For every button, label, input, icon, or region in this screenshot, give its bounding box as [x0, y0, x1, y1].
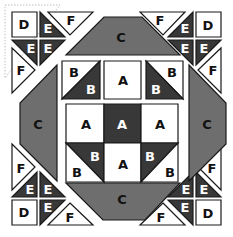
- piece-label: F: [209, 63, 218, 78]
- piece-label: B: [145, 149, 155, 164]
- piece-label: E: [44, 200, 53, 215]
- piece-label: B: [86, 82, 96, 97]
- piece-label: C: [117, 192, 127, 207]
- piece-label: F: [17, 63, 26, 78]
- piece-label: E: [27, 41, 36, 56]
- piece-label: B: [90, 149, 100, 164]
- piece-label: E: [181, 21, 190, 36]
- quilt-block-diagram: DEFEEFDEFEEFDEEEFFDEEEFFCCCCBBABBAAABBAB…: [0, 0, 233, 237]
- piece-label: F: [67, 13, 76, 28]
- piece-label: D: [19, 17, 30, 32]
- piece-label: D: [203, 18, 214, 33]
- piece-label: B: [167, 65, 177, 80]
- piece-label: A: [81, 117, 91, 132]
- piece-label: A: [117, 117, 127, 132]
- piece-label: E: [44, 182, 53, 197]
- piece-label: B: [69, 65, 79, 80]
- piece-label: E: [200, 41, 209, 56]
- piece-label: A: [118, 73, 128, 88]
- piece-label: F: [156, 13, 165, 28]
- piece-label: C: [116, 30, 126, 45]
- piece-label: E: [44, 41, 53, 56]
- piece-label: D: [19, 205, 30, 220]
- piece-label: E: [44, 21, 53, 36]
- piece-label: F: [208, 161, 217, 176]
- piece-label: F: [66, 210, 75, 225]
- piece-label: D: [203, 206, 214, 221]
- piece-label: E: [181, 200, 190, 215]
- piece-label: E: [181, 41, 190, 56]
- piece-label: E: [26, 182, 35, 197]
- piece-label: C: [202, 117, 212, 132]
- piece-label: A: [155, 117, 165, 132]
- piece-label: F: [157, 210, 166, 225]
- piece-label: B: [151, 82, 161, 97]
- piece-label: B: [72, 165, 82, 180]
- piece-label: C: [33, 117, 43, 132]
- piece-label: E: [182, 182, 191, 197]
- piece-label: A: [118, 157, 128, 172]
- piece-label: E: [200, 182, 209, 197]
- piece-label: B: [165, 165, 175, 180]
- piece-label: F: [17, 161, 26, 176]
